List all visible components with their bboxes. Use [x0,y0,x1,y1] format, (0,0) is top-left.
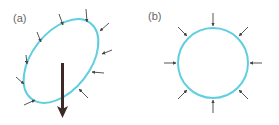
arrow-icon [79,89,88,98]
panel-a-label: (a) [13,12,26,24]
circle [178,28,248,98]
arrow-icon [100,23,109,31]
arrow-icon [239,27,248,36]
panel-a: (a) [9,5,114,118]
arrow-icon [178,27,187,36]
arrow-icon [239,90,248,99]
arrow-icon [178,90,187,99]
arrow-icon [24,100,35,105]
panel-b-label: (b) [148,10,161,22]
panel-b: (b) [148,10,262,113]
figure-canvas: (a) (b) [0,0,279,125]
large-downward-arrow-icon [57,63,68,118]
arrow-icon [102,50,112,54]
arrow-icon [92,72,104,73]
